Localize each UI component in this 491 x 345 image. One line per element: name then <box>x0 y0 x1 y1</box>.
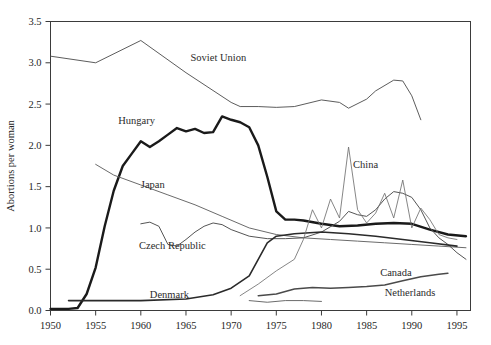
x-tick-label: 1990 <box>401 320 422 331</box>
y-tick-label: 3.5 <box>28 16 41 27</box>
x-tick-label: 1950 <box>40 320 61 331</box>
y-tick-label: 3.0 <box>28 57 41 68</box>
x-tick-label: 1975 <box>266 320 287 331</box>
y-axis-title: Abortions per woman <box>5 119 16 211</box>
series-annotation-czech-republic: Czech Republic <box>139 240 206 251</box>
x-tick-label: 1980 <box>311 320 332 331</box>
x-tick-label: 1970 <box>221 320 242 331</box>
abortion-rate-line-chart: 0.00.51.01.52.02.53.03.51950195519601965… <box>0 0 491 345</box>
series-line-china <box>240 147 457 296</box>
y-tick-label: 2.0 <box>28 140 41 151</box>
x-tick-label: 1995 <box>446 320 467 331</box>
x-tick-label: 1960 <box>130 320 151 331</box>
x-tick-label: 1985 <box>356 320 377 331</box>
series-annotation-japan: Japan <box>141 179 166 190</box>
y-tick-label: 1.5 <box>28 181 41 192</box>
series-annotation-china: China <box>353 159 378 170</box>
series-annotation-canada: Canada <box>380 267 412 278</box>
x-tick-label: 1955 <box>85 320 106 331</box>
series-annotation-soviet-union: Soviet Union <box>191 52 247 63</box>
y-tick-label: 1.0 <box>28 223 41 234</box>
chart-svg: 0.00.51.01.52.02.53.03.51950195519601965… <box>0 0 491 345</box>
y-tick-label: 2.5 <box>28 99 41 110</box>
series-annotation-denmark: Denmark <box>150 289 190 300</box>
y-tick-label: 0.0 <box>28 305 41 316</box>
series-line-netherlands <box>249 301 321 303</box>
x-tick-label: 1965 <box>175 320 196 331</box>
series-annotation-hungary: Hungary <box>118 115 155 126</box>
series-annotation-netherlands: Netherlands <box>385 287 436 298</box>
y-tick-label: 0.5 <box>28 264 41 275</box>
